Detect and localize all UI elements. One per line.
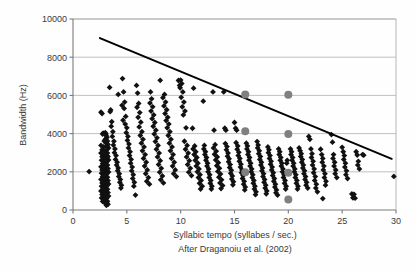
y-tick-label: 8000 xyxy=(47,53,67,63)
y-tick-label: 2000 xyxy=(47,167,67,177)
y-axis-title: Bandwidth (Hz) xyxy=(18,84,28,146)
highlight-point xyxy=(241,90,249,98)
x-tick-label: 20 xyxy=(283,216,293,226)
chart-figure: 0200040006000800010000 051015202530 Band… xyxy=(0,0,417,271)
highlight-point xyxy=(284,130,292,138)
chart-caption: After Draganoiu et al. (2002) xyxy=(178,244,292,254)
y-tick-label: 0 xyxy=(62,205,67,215)
highlight-point xyxy=(241,127,249,135)
x-tick-label: 10 xyxy=(176,216,186,226)
scatter-plot: 0200040006000800010000 051015202530 Band… xyxy=(0,0,417,271)
x-tick-label: 25 xyxy=(337,216,347,226)
x-tick-label: 5 xyxy=(124,216,129,226)
y-tick-label: 6000 xyxy=(47,91,67,101)
highlight-point xyxy=(284,195,292,203)
highlight-point xyxy=(284,91,292,99)
x-axis-title: Syllabic tempo (syllabes / sec.) xyxy=(173,230,297,240)
x-tick-label: 15 xyxy=(229,216,239,226)
y-tick-label: 4000 xyxy=(47,129,67,139)
y-tick-label: 10000 xyxy=(42,14,67,24)
x-tick-label: 30 xyxy=(391,216,401,226)
highlight-point xyxy=(241,168,249,176)
highlight-point xyxy=(284,169,292,177)
x-tick-label: 0 xyxy=(70,216,75,226)
